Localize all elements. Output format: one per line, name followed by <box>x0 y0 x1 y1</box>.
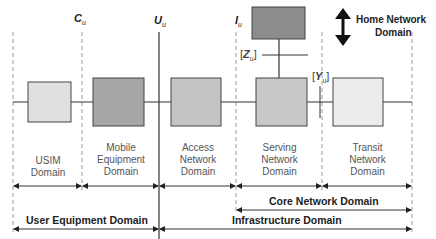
infrastructure-domain-label: Infrastructure Domain <box>232 214 342 226</box>
core-network-domain-label: Core Network Domain <box>269 195 379 207</box>
usim-domain-label: USIMDomain <box>14 155 82 179</box>
interface-iu-label: Iu <box>235 14 242 28</box>
home-updown-arrow-icon <box>335 8 351 46</box>
interface-zu-label: [Zu] <box>240 48 257 62</box>
mobile-equipment-domain-label: MobileEquipmentDomain <box>83 142 159 178</box>
user-equipment-domain-label: User Equipment Domain <box>26 214 148 226</box>
home-network-box <box>252 7 305 39</box>
access-network-domain-label: AccessNetworkDomain <box>160 142 236 178</box>
usim-box <box>28 82 71 122</box>
transit-network-domain-label: TransitNetworkDomain <box>323 142 412 178</box>
interface-uu-label: Uu <box>154 14 166 28</box>
transit-network-box <box>333 78 383 126</box>
home-network-label-line1: Home Network <box>356 14 426 25</box>
serving-network-box <box>256 78 307 126</box>
access-network-box <box>171 78 221 126</box>
interface-yu-label: [Yu] <box>312 70 329 84</box>
serving-network-domain-label: ServingNetworkDomain <box>237 142 322 178</box>
interface-cu-label: Cu <box>74 12 86 26</box>
mobile-equipment-box <box>93 78 144 126</box>
home-network-label-line2: Domain <box>375 27 412 38</box>
